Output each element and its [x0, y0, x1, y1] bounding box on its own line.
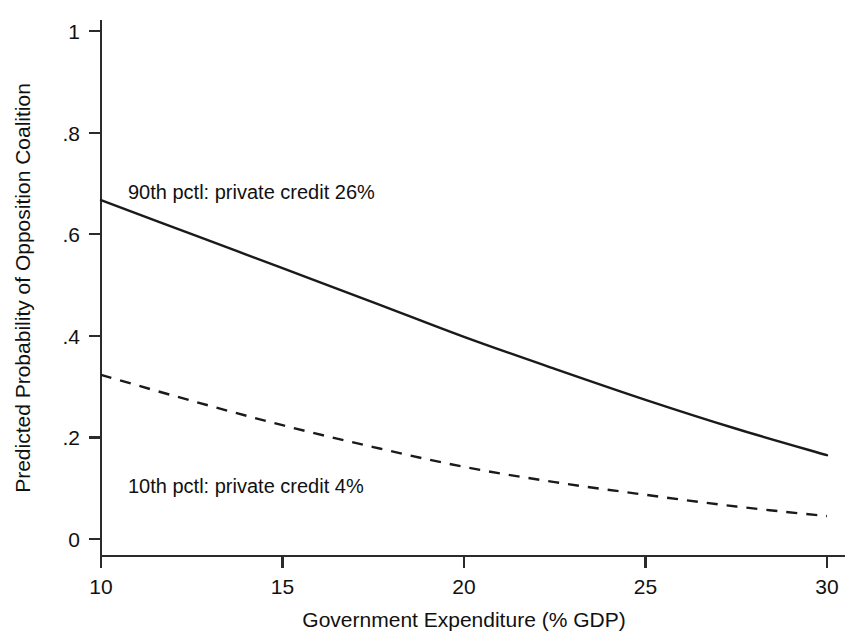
annotation-10th-pctl: 10th pctl: private credit 4%: [128, 475, 364, 497]
series-group: [101, 200, 827, 516]
chart-canvas: 0 .2 .4 .6 .8 1 10 15 20 25 30: [0, 0, 856, 637]
y-tick-label-2: .4: [62, 325, 80, 348]
y-tick-label-5: 1: [68, 20, 80, 43]
x-tick-label-0: 10: [89, 575, 112, 598]
x-tick-label-3: 25: [634, 575, 657, 598]
x-axis-ticks: 10 15 20 25 30: [89, 556, 838, 598]
annotation-90th-pctl: 90th pctl: private credit 26%: [128, 181, 375, 203]
y-axis-title: Predicted Probability of Opposition Coal…: [11, 83, 34, 493]
x-tick-label-2: 20: [452, 575, 475, 598]
y-tick-label-0: 0: [68, 528, 80, 551]
chart-figure: 0 .2 .4 .6 .8 1 10 15 20 25 30: [0, 0, 856, 637]
y-tick-label-1: .2: [62, 426, 80, 449]
x-tick-label-4: 30: [815, 575, 838, 598]
y-tick-label-3: .6: [62, 223, 80, 246]
y-tick-label-4: .8: [62, 122, 80, 145]
y-axis-ticks: 0 .2 .4 .6 .8 1: [62, 20, 101, 551]
x-axis-title: Government Expenditure (% GDP): [302, 608, 625, 631]
x-tick-label-1: 15: [271, 575, 294, 598]
series-line-90th-pctl: [101, 200, 827, 455]
